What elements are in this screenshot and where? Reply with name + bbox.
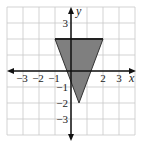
coordinate-plane: x y −3−2−1233−1−2−3 <box>0 0 143 144</box>
arrow-up-icon <box>68 7 74 14</box>
arrow-down-icon <box>68 134 74 141</box>
x-tick-label: −3 <box>16 72 28 84</box>
y-tick-label: −1 <box>56 81 68 93</box>
y-tick-label: −2 <box>56 97 68 109</box>
x-tick-label: −2 <box>32 72 44 84</box>
x-axis-label: x <box>128 71 135 85</box>
x-tick-label: 2 <box>100 72 106 84</box>
x-tick-label: 3 <box>116 72 122 84</box>
arrow-left-icon <box>7 68 14 74</box>
y-axis-label: y <box>75 4 82 18</box>
y-tick-label: 3 <box>63 17 69 29</box>
y-tick-label: −3 <box>56 113 68 125</box>
